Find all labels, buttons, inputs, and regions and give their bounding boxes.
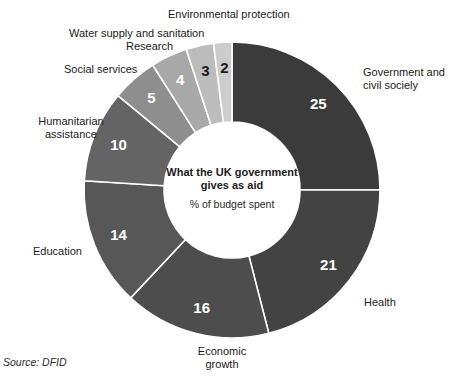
category-label-education: Education [33, 245, 82, 258]
slice-value-label: 2 [220, 59, 228, 76]
center-title-line-2: gives as aid [201, 179, 263, 191]
economic-line-2: growth [205, 358, 238, 370]
slice-value-label: 10 [110, 136, 127, 153]
slice-value-label: 4 [176, 71, 185, 88]
slice-value-label: 14 [110, 226, 127, 243]
category-label-research: Research [126, 40, 173, 53]
category-label-humanitarian-assistance: Humanitarian assistance [31, 115, 111, 141]
government-line-2: civil sociely [363, 79, 418, 91]
government-line-1: Government and [363, 66, 445, 78]
category-label-health: Health [364, 296, 396, 309]
center-subtitle: % of budget spent [190, 198, 275, 210]
humanitarian-line-1: Humanitarian [38, 115, 103, 127]
center-title-line-1: What the UK government [166, 166, 298, 178]
category-label-economic-growth: Economic growth [186, 345, 258, 371]
category-label-water-supply: Water supply and sanitation [69, 27, 204, 40]
slice-value-label: 5 [147, 89, 155, 106]
donut-chart-svg: What the UK government gives as aid % of… [0, 0, 449, 380]
economic-line-1: Economic [198, 345, 246, 357]
donut-chart: What the UK government gives as aid % of… [0, 0, 449, 380]
category-label-social-services: Social services [64, 63, 137, 76]
humanitarian-line-2: assistance [45, 128, 97, 140]
slice-value-label: 16 [193, 299, 210, 316]
category-label-environmental-protection: Environmental protection [168, 8, 290, 21]
slice-value-label: 21 [320, 256, 337, 273]
slice-value-label: 3 [201, 62, 209, 79]
category-label-government-civil-society: Government and civil sociely [363, 66, 449, 92]
source-note: Source: DFID [3, 356, 67, 368]
slice-value-label: 25 [310, 95, 327, 112]
